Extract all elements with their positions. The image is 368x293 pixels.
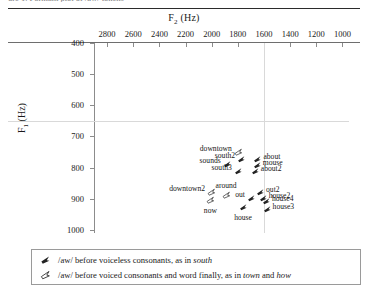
- x-tick-label-1200: 1200: [308, 29, 325, 39]
- plot-area: 2800260024002200200018001600140012001000…: [94, 43, 349, 233]
- dart-filled-icon: [40, 255, 51, 266]
- x-tick-label-1400: 1400: [282, 29, 299, 39]
- legend-text-voiceless: /aw/ before voiceless consonants, as in …: [58, 255, 212, 265]
- x-tick: [133, 43, 134, 47]
- x-tick: [212, 43, 213, 47]
- data-point-label-now: now: [204, 206, 217, 215]
- y-tick: [90, 105, 94, 106]
- legend-row-voiceless: /aw/ before voiceless consonants, as in …: [40, 252, 212, 268]
- x-tick-label-2200: 2200: [177, 29, 194, 39]
- y-tick-label-1000: 1000: [67, 225, 84, 235]
- y-tick-label-900: 900: [71, 194, 84, 204]
- x-tick: [186, 43, 187, 47]
- y-tick-label-600: 600: [71, 100, 84, 110]
- data-point-house3: [263, 205, 272, 214]
- formant-plot-figure: ure 1. Formant plot of /aw/ tokens F2 (H…: [0, 0, 368, 293]
- legend-text-voiced: /aw/ before voiced consonants and word f…: [58, 270, 291, 280]
- y-axis-line: [94, 43, 95, 233]
- x-axis-title-unit: (Hz): [181, 12, 200, 23]
- y-tick: [90, 199, 94, 200]
- x-tick: [342, 43, 343, 47]
- x-tick-label-2400: 2400: [151, 29, 168, 39]
- x-tick: [290, 43, 291, 47]
- data-point-label-around: around: [216, 181, 237, 190]
- x-tick: [316, 43, 317, 47]
- y-tick: [90, 74, 94, 75]
- y-axis-title-unit: (Hz): [16, 103, 27, 121]
- data-point-around: [222, 191, 231, 200]
- y-tick-label-500: 500: [71, 69, 84, 79]
- y-tick: [90, 136, 94, 137]
- dart-open-icon: [40, 270, 51, 281]
- top-rule: [8, 8, 360, 9]
- y-axis-title: F1 (Hz): [16, 103, 30, 133]
- data-point-label-out: out: [235, 190, 245, 199]
- x-tick-label-1000: 1000: [334, 29, 351, 39]
- x-tick-label-1800: 1800: [229, 29, 246, 39]
- y-tick: [90, 230, 94, 231]
- data-point-label-about2: about2: [261, 164, 282, 173]
- data-point-about2: [251, 167, 260, 176]
- x-tick-label-1600: 1600: [256, 29, 273, 39]
- data-point-label-downtown: downtown: [200, 144, 232, 153]
- y-axis-title-main: F: [16, 127, 27, 133]
- y-tick-label-400: 400: [71, 38, 84, 48]
- y-tick: [90, 168, 94, 169]
- data-point-now: [206, 196, 215, 205]
- data-point-house: [239, 203, 248, 212]
- x-axis-title-sub: 2: [174, 18, 178, 26]
- x-tick-label-2600: 2600: [125, 29, 142, 39]
- x-tick: [159, 43, 160, 47]
- cut-off-caption: ure 1. Formant plot of /aw/ tokens: [8, 0, 360, 2]
- x-tick: [107, 43, 108, 47]
- y-tick: [90, 43, 94, 44]
- y-tick-label-800: 800: [71, 163, 84, 173]
- x-axis-title: F2 (Hz): [0, 12, 368, 26]
- data-point-downtown: [234, 148, 243, 157]
- x-tick-label-2000: 2000: [203, 29, 220, 39]
- data-point-label-south3: south3: [212, 163, 232, 172]
- x-tick: [238, 43, 239, 47]
- y-axis-title-sub: 1: [22, 124, 30, 128]
- data-point-south3: [234, 167, 243, 176]
- x-tick-label-2800: 2800: [99, 29, 116, 39]
- legend-row-voiced: /aw/ before voiced consonants and word f…: [40, 267, 291, 283]
- legend: /aw/ before voiceless consonants, as in …: [31, 249, 361, 285]
- data-point-out: [247, 194, 256, 203]
- reference-line-horizontal: [8, 121, 349, 122]
- data-point-label-house: house: [234, 213, 252, 222]
- data-point-label-downtown2: downtown2: [169, 184, 205, 193]
- y-tick-label-700: 700: [71, 131, 84, 141]
- data-point-label-house3: house3: [273, 202, 295, 211]
